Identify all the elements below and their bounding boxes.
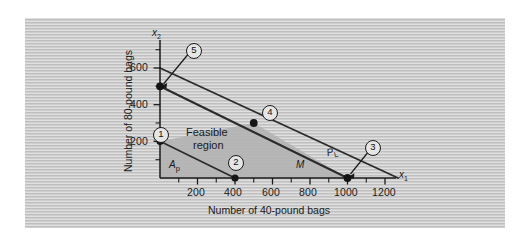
x-axis-title: Number of 40-pound bags: [208, 205, 330, 216]
feasible-region-label-line2: region: [193, 140, 224, 151]
figure-page: x2 x1 200 400 600 200 400 600 800 1000 1…: [0, 0, 525, 246]
y-axis-title: Number of 80-pound bags: [122, 50, 134, 172]
x-tick-label-600: 600: [262, 187, 280, 198]
vertex-marker-2: [231, 174, 238, 181]
x-tick-label-1000: 1000: [334, 187, 358, 198]
vertex-marker-3: [344, 174, 352, 182]
constraint-label-m: M: [296, 160, 304, 173]
callout-number-5: 5: [186, 43, 202, 59]
callout-number-4: 4: [262, 105, 278, 121]
constraint-label-ap: Ap: [169, 160, 180, 173]
x-axis-name: x1: [399, 170, 408, 182]
x-tick-label-800: 800: [299, 187, 317, 198]
callout-number-2: 2: [228, 155, 244, 171]
y-axis-name: x2: [152, 28, 161, 40]
callout-number-1: 1: [153, 127, 169, 143]
x-tick-label-200: 200: [187, 187, 205, 198]
feasible-region-label-line1: Feasible: [186, 127, 228, 138]
x-tick-label-1200: 1200: [372, 187, 396, 198]
callout-number-3: 3: [365, 140, 381, 156]
vertex-marker-5: [156, 82, 164, 90]
vertex-marker-4: [250, 119, 258, 127]
x-tick-label-400: 400: [224, 187, 242, 198]
